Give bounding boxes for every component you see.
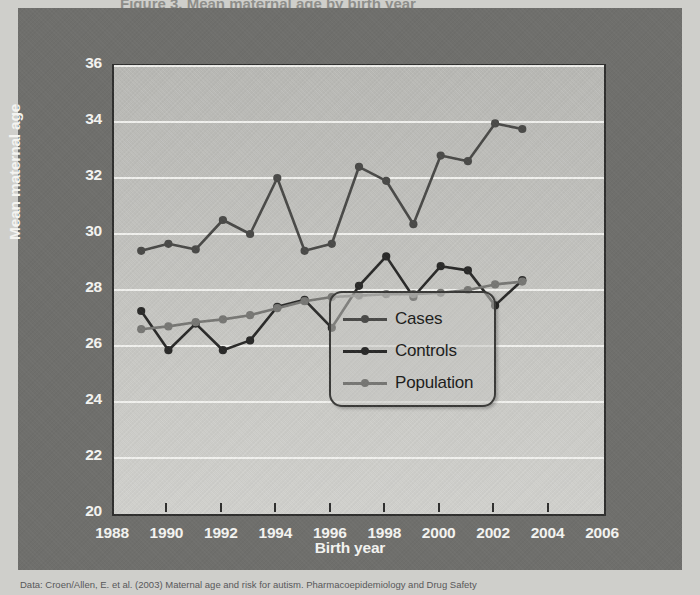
x-tick-mark [329,503,331,512]
x-axis-title: Birth year [18,539,682,557]
y-tick-label: 32 [62,166,102,184]
y-tick-label: 20 [62,502,102,520]
data-point-controls [437,262,445,270]
data-point-population [246,311,254,319]
legend-label: Controls [395,341,457,361]
data-point-controls [382,252,390,260]
data-point-population [219,315,227,323]
legend-label: Population [395,373,473,393]
x-tick-mark [438,503,440,512]
legend-swatch-population-icon [343,376,387,390]
data-point-cases [328,240,336,248]
chart-legend: CasesControlsPopulation [329,291,496,407]
data-point-cases [273,174,281,182]
data-point-cases [192,245,200,253]
data-point-controls [219,346,227,354]
data-point-controls [355,282,363,290]
data-point-cases [409,220,417,228]
x-tick-mark [165,503,167,512]
x-tick-mark [547,503,549,512]
legend-swatch-cases-icon [343,312,387,326]
x-tick-mark [383,503,385,512]
x-tick-mark [274,503,276,512]
data-point-population [192,318,200,326]
y-tick-label: 26 [62,334,102,352]
y-tick-label: 22 [62,446,102,464]
data-point-cases [246,230,254,238]
data-point-cases [164,240,172,248]
data-point-population [137,325,145,333]
x-tick-mark [492,503,494,512]
legend-item-population[interactable]: Population [343,368,473,398]
data-point-controls [164,346,172,354]
plot-area [112,64,606,516]
data-point-cases [137,247,145,255]
data-point-cases [301,247,309,255]
data-point-population [491,280,499,288]
legend-item-cases[interactable]: Cases [343,304,442,334]
figure-caption: Data: Croen/Allen, E. et al. (2003) Mate… [20,578,692,595]
y-axis-title: Mean maternal age [6,104,24,240]
data-point-cases [382,177,390,185]
y-tick-label: 34 [62,110,102,128]
data-series-group [114,66,604,514]
data-point-cases [355,163,363,171]
x-tick-mark [220,503,222,512]
data-point-cases [219,216,227,224]
series-line-cases [141,123,522,250]
y-tick-label: 28 [62,278,102,296]
figure-panel: 363432302826242220 198819901992199419961… [18,8,682,570]
y-tick-label: 24 [62,390,102,408]
legend-label: Cases [395,309,442,329]
data-point-cases [464,157,472,165]
data-point-controls [464,266,472,274]
data-point-population [301,297,309,305]
data-point-controls [137,307,145,315]
data-point-cases [491,119,499,127]
data-point-population [518,278,526,286]
data-point-population [164,322,172,330]
legend-item-controls[interactable]: Controls [343,336,457,366]
data-point-controls [246,336,254,344]
y-tick-label: 30 [62,222,102,240]
legend-swatch-controls-icon [343,344,387,358]
data-point-cases [518,125,526,133]
y-tick-label: 36 [62,54,102,72]
data-point-cases [437,152,445,160]
data-point-population [273,304,281,312]
figure-title-clipped: Figure 3. Mean maternal age by birth yea… [0,0,700,8]
